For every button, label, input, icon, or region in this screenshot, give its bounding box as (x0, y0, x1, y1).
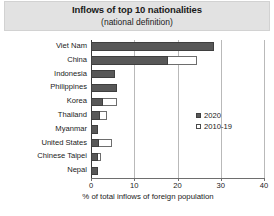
hollow-square-icon (196, 124, 201, 129)
bar-2020 (91, 153, 98, 161)
bar-2020 (91, 42, 214, 50)
category-label: Philippines (50, 82, 87, 91)
category-label: Thailand (58, 110, 87, 119)
bar-group: Myanmar (91, 123, 264, 137)
category-label: Viet Nam (56, 41, 87, 50)
chart-subtitle: (national definition) (5, 17, 269, 27)
bar-2020 (91, 56, 168, 64)
x-tick-label: 20 (173, 181, 181, 190)
legend-label: 2020 (204, 111, 221, 120)
x-tick-label: 10 (130, 181, 138, 190)
category-label: Indonesia (54, 69, 87, 78)
filled-square-icon (196, 113, 201, 118)
x-tick-label: 40 (260, 181, 268, 190)
x-tick-label: 0 (89, 181, 93, 190)
bar-group: Nepal (91, 164, 264, 178)
bar-group: Chinese Taipei (91, 150, 264, 164)
category-label: United States (41, 138, 87, 147)
bar-group: Philippines (91, 81, 264, 95)
chart-legend: 20202010-19 (196, 110, 232, 132)
bar-group: Thailand (91, 109, 264, 123)
x-axis-label: % of total inflows of foreign population (0, 192, 274, 201)
category-label: Korea (67, 96, 87, 105)
plot-area: Viet NamChinaIndonesiaPhilippinesKoreaTh… (91, 40, 264, 178)
legend-item: 2010-19 (196, 121, 232, 132)
bar-group: United States (91, 137, 264, 151)
category-label: Nepal (67, 165, 87, 174)
category-label: China (67, 55, 87, 64)
bar-2020 (91, 139, 99, 147)
x-tick-label: 30 (217, 181, 225, 190)
category-label: Myanmar (55, 124, 87, 133)
gridline (264, 40, 265, 178)
bar-2020 (91, 98, 103, 106)
bar-2020 (91, 125, 98, 133)
bar-group: China (91, 54, 264, 68)
bar-2020 (91, 84, 117, 92)
bar-2020 (91, 70, 115, 78)
category-label: Chinese Taipei (37, 151, 87, 160)
title-band: Inflows of top 10 nationalities (nationa… (4, 1, 270, 31)
bar-2020 (91, 167, 98, 175)
chart-container: Inflows of top 10 nationalities (nationa… (0, 0, 274, 216)
legend-label: 2010-19 (204, 122, 232, 131)
bar-group: Indonesia (91, 68, 264, 82)
legend-item: 2020 (196, 110, 232, 121)
bar-2020 (91, 111, 100, 119)
bar-group: Viet Nam (91, 40, 264, 54)
bar-group: Korea (91, 95, 264, 109)
chart-title: Inflows of top 10 nationalities (5, 4, 269, 15)
